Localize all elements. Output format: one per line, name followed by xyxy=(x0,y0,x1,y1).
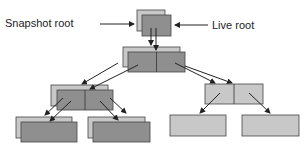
node-leaf3 xyxy=(170,115,226,136)
node-live-leaf2 xyxy=(93,122,150,142)
live-root-label: Live root xyxy=(212,19,254,31)
node-live-leaf1 xyxy=(21,122,77,142)
snapshot-root-label: Snapshot root xyxy=(5,17,74,29)
node-leaf4 xyxy=(242,115,299,136)
snapshot-tree-diagram: Snapshot root Live root xyxy=(0,0,305,151)
